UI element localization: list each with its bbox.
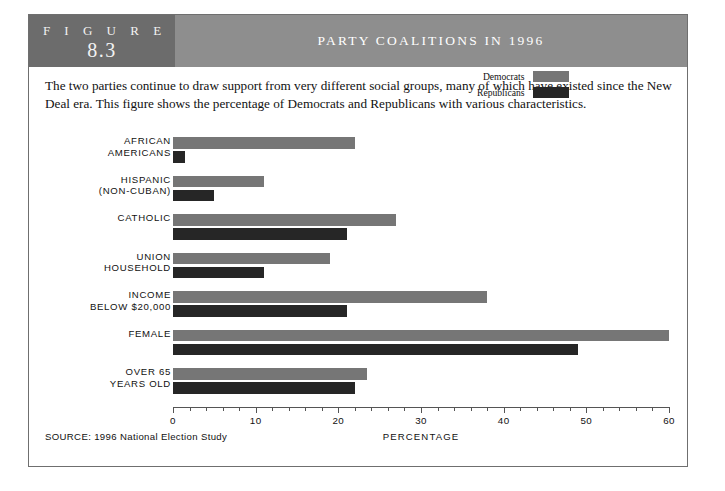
bar-democrats	[173, 137, 355, 149]
legend-swatch-democrats	[533, 71, 569, 82]
bar-republicans	[173, 151, 185, 163]
x-tick-major	[173, 407, 174, 413]
figure-number-label: 8.3	[87, 39, 117, 61]
figure-intro-text: The two parties continue to draw support…	[45, 77, 673, 112]
x-tick-minor	[404, 407, 405, 411]
bar-republicans	[173, 305, 347, 317]
x-tick-minor	[553, 407, 554, 411]
chart-row: UNIONHOUSEHOLD	[29, 251, 687, 290]
bar-democrats	[173, 368, 367, 380]
x-tick-minor	[190, 407, 191, 411]
category-label: HISPANIC(NON-CUBAN)	[21, 174, 171, 197]
chart-legend: Democrats Republicans	[477, 71, 569, 103]
bar-democrats	[173, 291, 487, 303]
category-label: FEMALE	[21, 328, 171, 340]
bar-republicans	[173, 382, 355, 394]
x-tick-minor	[570, 407, 571, 411]
x-tick-major	[256, 407, 257, 413]
x-tick-minor	[289, 407, 290, 411]
x-tick-minor	[388, 407, 389, 411]
figure-word-label: F I G U R E	[37, 23, 166, 38]
legend-swatch-republicans	[533, 87, 569, 98]
x-tick-minor	[520, 407, 521, 411]
bar-republicans	[173, 190, 214, 202]
chart-row: INCOMEBELOW $20,000	[29, 289, 687, 328]
bar-group	[173, 328, 669, 367]
category-label: UNIONHOUSEHOLD	[21, 251, 171, 274]
legend-label-republicans: Republicans	[477, 87, 524, 98]
bar-group	[173, 289, 669, 328]
x-tick-label: 40	[498, 415, 510, 426]
category-label: AFRICANAMERICANS	[21, 135, 171, 158]
x-tick-label: 60	[663, 415, 675, 426]
bar-democrats	[173, 214, 396, 226]
x-tick-minor	[619, 407, 620, 411]
x-tick-minor	[272, 407, 273, 411]
x-tick-major	[338, 407, 339, 413]
x-tick-major	[504, 407, 505, 413]
x-tick-minor	[471, 407, 472, 411]
bar-group	[173, 135, 669, 174]
bar-republicans	[173, 267, 264, 279]
bar-group	[173, 366, 669, 405]
x-tick-major	[421, 407, 422, 413]
x-tick-minor	[454, 407, 455, 411]
x-tick-minor	[371, 407, 372, 411]
x-tick-minor	[355, 407, 356, 411]
x-tick-label: 10	[250, 415, 262, 426]
chart-plot-area: AFRICANAMERICANSHISPANIC(NON-CUBAN)CATHO…	[29, 135, 687, 405]
figure-frame: F I G U R E 8.3 PARTY COALITIONS IN 1996…	[28, 14, 688, 467]
legend-item-democrats: Democrats	[477, 71, 569, 82]
legend-label-democrats: Democrats	[483, 71, 525, 82]
bar-republicans	[173, 228, 347, 240]
x-tick-minor	[305, 407, 306, 411]
x-tick-minor	[206, 407, 207, 411]
bar-republicans	[173, 344, 578, 356]
chart-row: HISPANIC(NON-CUBAN)	[29, 174, 687, 213]
chart-row: AFRICANAMERICANS	[29, 135, 687, 174]
x-axis: PERCENTAGE 0102030405060	[173, 407, 669, 447]
figure-title-band: PARTY COALITIONS IN 1996	[175, 15, 687, 67]
x-tick-minor	[537, 407, 538, 411]
x-tick-label: 0	[170, 415, 176, 426]
bar-group	[173, 212, 669, 251]
source-note: SOURCE: 1996 National Election Study	[45, 431, 227, 442]
category-label: INCOMEBELOW $20,000	[21, 289, 171, 312]
bar-group	[173, 174, 669, 213]
x-tick-label: 20	[332, 415, 344, 426]
bar-democrats	[173, 176, 264, 188]
x-tick-minor	[652, 407, 653, 411]
chart-row: CATHOLIC	[29, 212, 687, 251]
x-tick-minor	[487, 407, 488, 411]
x-tick-minor	[223, 407, 224, 411]
x-tick-minor	[322, 407, 323, 411]
x-tick-minor	[603, 407, 604, 411]
category-label: OVER 65YEARS OLD	[21, 366, 171, 389]
x-tick-label: 50	[580, 415, 592, 426]
category-label: CATHOLIC	[21, 212, 171, 224]
x-tick-minor	[438, 407, 439, 411]
figure-body: The two parties continue to draw support…	[29, 67, 687, 467]
figure-number-badge: F I G U R E 8.3	[29, 15, 175, 67]
chart-row: FEMALE	[29, 328, 687, 367]
bar-democrats	[173, 330, 669, 342]
x-axis-title: PERCENTAGE	[173, 431, 669, 442]
x-tick-major	[669, 407, 670, 413]
x-tick-label: 30	[415, 415, 427, 426]
chart-row: OVER 65YEARS OLD	[29, 366, 687, 405]
x-tick-major	[586, 407, 587, 413]
bar-group	[173, 251, 669, 290]
figure-header: F I G U R E 8.3 PARTY COALITIONS IN 1996	[29, 15, 687, 67]
legend-item-republicans: Republicans	[477, 87, 569, 98]
bar-democrats	[173, 253, 330, 265]
x-tick-minor	[239, 407, 240, 411]
page-title: PARTY COALITIONS IN 1996	[318, 33, 545, 49]
x-tick-minor	[636, 407, 637, 411]
